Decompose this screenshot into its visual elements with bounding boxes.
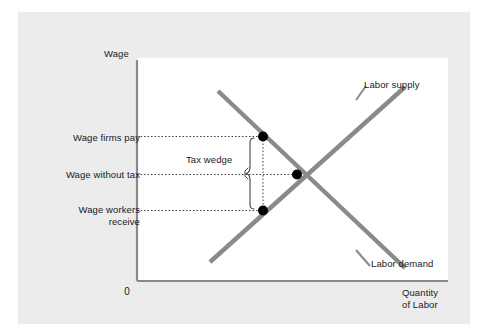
curve-label-leaders-group [356, 86, 370, 266]
point-wage-workers-receive[interactable] [258, 206, 268, 216]
figure-root: Wage Wage firms pay Wage without tax Wag… [0, 0, 486, 335]
label-wage-firms-pay: Wage firms pay [40, 132, 140, 144]
guide-lines-group [137, 137, 296, 212]
tax-wedge-brace-icon [247, 138, 255, 209]
label-labor-supply: Labor supply [364, 79, 444, 91]
x-axis-label: Quantity of Labor [402, 287, 478, 310]
labor-demand-label-leader [356, 250, 370, 266]
point-wage-firms-pay[interactable] [258, 132, 268, 142]
label-wage-without-tax: Wage without tax [40, 169, 140, 181]
y-axis-label: Wage [104, 48, 150, 60]
axis-origin-label: 0 [120, 286, 134, 298]
label-wage-workers-receive: Wage workers receive [40, 204, 140, 227]
diagram-canvas [0, 0, 486, 335]
label-labor-demand: Labor demand [371, 258, 451, 270]
labor-demand-curve[interactable] [218, 91, 405, 268]
curves-group [210, 87, 405, 268]
data-points-group [258, 132, 302, 216]
label-tax-wedge: Tax wedge [186, 154, 252, 166]
point-wage-without-tax[interactable] [292, 170, 302, 180]
